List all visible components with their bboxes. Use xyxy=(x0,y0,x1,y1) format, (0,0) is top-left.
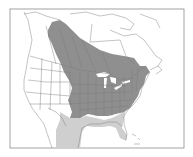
range-map xyxy=(0,0,193,157)
north-america-map xyxy=(0,0,193,157)
